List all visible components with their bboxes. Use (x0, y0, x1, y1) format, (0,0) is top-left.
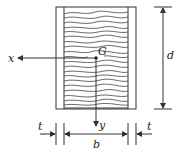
width-label: b (93, 138, 100, 151)
left-thickness-label: t (38, 120, 43, 133)
depth-label: d (167, 49, 174, 62)
centroid-label: G (98, 45, 107, 58)
y-axis-label: y (98, 119, 106, 132)
x-axis-label: x (8, 52, 15, 65)
right-thickness-label: t (147, 120, 152, 133)
beam-cross-section-diagram: G x y d b t t (0, 0, 183, 155)
